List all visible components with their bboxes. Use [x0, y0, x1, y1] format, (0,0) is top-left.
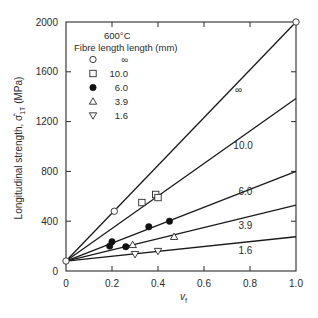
fit-line-6.0 — [66, 171, 296, 261]
line-label-∞: ∞ — [235, 84, 242, 95]
line-label-1.6: 1.6 — [238, 245, 252, 256]
y-tick-label: 1600 — [36, 66, 59, 77]
filled-circle-marker — [146, 224, 152, 230]
open-square-marker — [139, 199, 145, 205]
legend-title: 600°C — [104, 30, 131, 41]
line-label-6.0: 6.0 — [238, 186, 252, 197]
open-square-marker — [155, 194, 161, 200]
open-circle-marker — [111, 208, 117, 214]
legend-label: 6.0 — [115, 82, 128, 93]
x-tick-label: 0.6 — [197, 278, 211, 289]
legend-heading: Fibre length length (mm) — [74, 42, 177, 53]
line-label-10.0: 10.0 — [233, 140, 253, 151]
triangle-up-marker — [89, 98, 96, 104]
fit-line-3.9 — [66, 205, 296, 261]
y-tick-label: 2000 — [36, 17, 59, 28]
triangle-down-marker — [89, 113, 96, 119]
y-tick-label: 400 — [41, 216, 58, 227]
y-tick-label: 0 — [52, 266, 58, 277]
fit-line-∞ — [66, 22, 296, 261]
filled-circle-marker — [109, 239, 115, 245]
open-circle-marker — [90, 56, 96, 62]
x-tick-label: 1.0 — [289, 278, 303, 289]
legend-label: ∞ — [121, 54, 128, 65]
fit-line-10.0 — [66, 99, 296, 261]
filled-circle-marker — [90, 84, 96, 90]
legend-label: 3.9 — [115, 96, 128, 107]
strength-vs-fibre-fraction-chart: 00.20.40.60.81.00400800120016002000 ∞10.… — [0, 0, 318, 318]
line-labels: ∞10.06.03.91.6 — [233, 84, 253, 256]
y-tick-label: 1200 — [36, 116, 59, 127]
x-axis-label: vf — [180, 291, 187, 304]
open-circle-marker — [293, 19, 299, 25]
y-tick-label: 800 — [41, 166, 58, 177]
filled-circle-marker — [123, 244, 129, 250]
x-tick-label: 0.4 — [151, 278, 165, 289]
open-circle-marker — [63, 258, 69, 264]
x-tick-label: 0.2 — [105, 278, 119, 289]
x-tick-label: 0.8 — [243, 278, 257, 289]
legend-label: 10.0 — [110, 68, 129, 79]
y-axis-label: Longitudinal strength, σ̂1T (MPa) — [13, 77, 26, 220]
filled-circle-marker — [166, 218, 172, 224]
x-tick-label: 0 — [63, 278, 69, 289]
line-label-3.9: 3.9 — [238, 220, 252, 231]
legend-label: 1.6 — [115, 110, 128, 121]
fit-line-1.6 — [66, 237, 296, 261]
open-square-marker — [90, 70, 96, 76]
legend: 600°C Fibre length length (mm) ∞10.06.03… — [74, 30, 177, 121]
fit-lines — [66, 22, 296, 261]
triangle-down-marker — [131, 251, 138, 257]
